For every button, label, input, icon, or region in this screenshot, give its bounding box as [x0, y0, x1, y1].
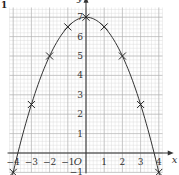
- y-tick-label: 2: [77, 109, 83, 119]
- origin-label: O: [74, 156, 82, 167]
- y-tick-label: 1: [77, 129, 83, 139]
- y-axis-label: y: [76, 0, 83, 3]
- x-tick-label: −2: [43, 157, 56, 167]
- x-tick-label: −4: [7, 157, 21, 167]
- y-tick-label: 5: [77, 51, 83, 61]
- x-tick-label: −3: [25, 157, 39, 167]
- y-tick-label: 4: [77, 70, 83, 80]
- y-axis-arrow-icon: [84, 0, 89, 3]
- y-tick-label: 6: [77, 32, 83, 42]
- x-tick-label: −1: [61, 157, 74, 167]
- x-tick-label: 1: [101, 157, 107, 167]
- x-axis-label: x: [172, 154, 178, 165]
- y-tick-label: 3: [77, 90, 83, 100]
- x-tick-label: 2: [120, 157, 126, 167]
- y-tick-label: −1: [70, 167, 83, 175]
- x-tick-label: 3: [138, 157, 144, 167]
- parabola-chart: −4−3−2−11234−11234567Oxy: [0, 0, 179, 175]
